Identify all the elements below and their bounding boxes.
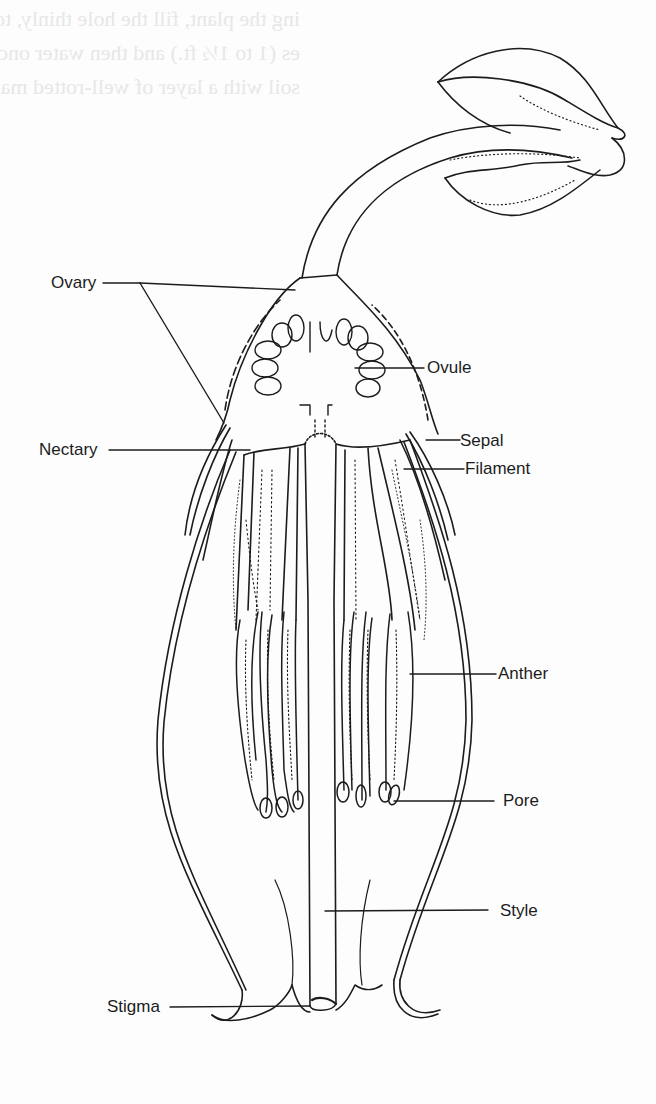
- label-filament: Filament: [465, 459, 530, 479]
- label-anther: Anther: [498, 664, 548, 684]
- label-sepal: Sepal: [460, 431, 503, 451]
- label-nectary: Nectary: [39, 440, 98, 460]
- stigma-tip: [310, 998, 336, 1010]
- anthers: [237, 612, 413, 818]
- style-column: [305, 444, 336, 1006]
- label-pore: Pore: [503, 791, 539, 811]
- corolla-lobes: [212, 880, 382, 1020]
- nectary-band: [244, 434, 410, 456]
- leader-lines: [103, 283, 496, 1007]
- label-style: Style: [500, 901, 538, 921]
- bud-petals: [438, 49, 625, 216]
- flower-illustration: [0, 0, 656, 1104]
- ovary-outline: [216, 275, 438, 440]
- label-ovary: Ovary: [51, 273, 96, 293]
- left-sepals: [185, 425, 232, 560]
- corolla-outer: [157, 440, 472, 1020]
- filaments-right: [344, 448, 420, 630]
- label-ovule: Ovule: [427, 358, 471, 378]
- diagram-canvas: ing the plant, fill the hole thinly, top…: [0, 0, 656, 1104]
- label-stigma: Stigma: [107, 997, 160, 1017]
- filaments-left: [236, 448, 298, 630]
- pedicel: [302, 125, 572, 278]
- ovules: [252, 315, 385, 440]
